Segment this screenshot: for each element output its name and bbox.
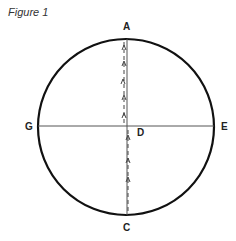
label-c: C — [123, 222, 130, 233]
label-a: A — [123, 21, 130, 32]
label-d: D — [137, 127, 144, 138]
upper-dashed-path — [121, 42, 126, 124]
label-e: E — [221, 121, 228, 132]
circle-diagram — [0, 0, 236, 241]
label-g: G — [25, 121, 33, 132]
